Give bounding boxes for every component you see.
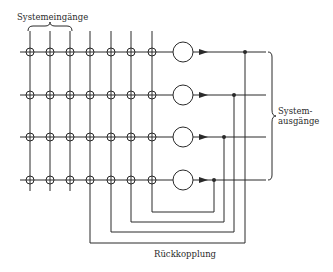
neurons <box>173 42 193 190</box>
neuron-4 <box>173 170 193 190</box>
inputs-label: Systemeingänge <box>17 12 88 22</box>
neuron-3 <box>173 127 193 147</box>
synapse-nodes <box>26 48 156 184</box>
inputs-brace <box>28 22 72 31</box>
feedback-label: Rückkopplung <box>154 249 217 259</box>
arrowheads <box>199 49 208 183</box>
output-lines <box>193 52 266 180</box>
outputs-label-line2: ausgänge <box>278 116 319 126</box>
row-lines <box>20 52 173 180</box>
tap-points <box>212 50 247 182</box>
neuron-1 <box>173 42 193 62</box>
outputs-brace <box>268 52 276 180</box>
recurrent-network-diagram: Systemeingänge <box>0 0 333 272</box>
feedback-loops <box>90 52 245 243</box>
outputs-label-line1: System- <box>278 106 312 116</box>
neuron-2 <box>173 85 193 105</box>
